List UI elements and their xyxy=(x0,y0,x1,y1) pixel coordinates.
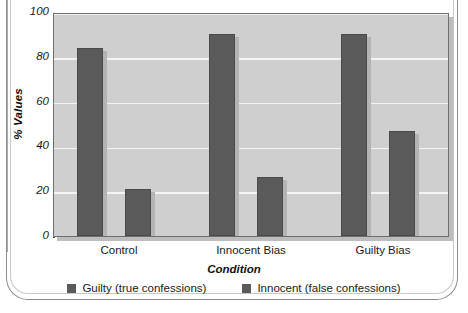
x-tick-label-control: Control xyxy=(59,244,179,256)
legend-item-2: Innocent (false confessions) xyxy=(242,282,400,294)
x-axis-title: Condition xyxy=(0,263,468,275)
legend-label: Innocent (false confessions) xyxy=(257,282,400,294)
y-tick-label-0: 0 xyxy=(9,229,49,241)
legend-swatch-icon xyxy=(242,284,251,293)
bar-control-series1 xyxy=(77,48,103,236)
bar-innocent-bias-series2 xyxy=(257,177,283,236)
bar-innocent-bias-series1 xyxy=(209,34,235,236)
plot-area xyxy=(53,13,449,237)
y-tick-label-80: 80 xyxy=(9,50,49,62)
bar-chart-figure: 020406080100 % Values Condition Guilty (… xyxy=(0,0,468,313)
y-axis-title: % Values xyxy=(12,74,24,154)
bar-guilty-bias-series1 xyxy=(341,34,367,236)
legend-item-1: Guilty (true confessions) xyxy=(67,282,206,294)
chart-page: 020406080100 % Values Condition Guilty (… xyxy=(0,0,468,313)
y-tick-label-20: 20 xyxy=(9,184,49,196)
bar-control-series2 xyxy=(125,189,151,236)
chart-legend: Guilty (true confessions)Innocent (false… xyxy=(0,282,468,294)
bar-guilty-bias-series2 xyxy=(389,131,415,236)
y-tick-label-100: 100 xyxy=(9,5,49,17)
legend-swatch-icon xyxy=(67,284,76,293)
gridline-100 xyxy=(54,13,448,15)
x-tick-label-guilty-bias: Guilty Bias xyxy=(323,244,443,256)
gridline-60 xyxy=(54,103,448,105)
x-tick-label-innocent-bias: Innocent Bias xyxy=(191,244,311,256)
gridline-80 xyxy=(54,58,448,60)
legend-label: Guilty (true confessions) xyxy=(82,282,206,294)
